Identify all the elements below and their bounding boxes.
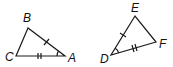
triangle-abc bbox=[16, 28, 65, 59]
triangle-def bbox=[111, 16, 156, 55]
label-a: A bbox=[67, 51, 76, 65]
label-e: E bbox=[131, 1, 140, 15]
label-c: C bbox=[5, 50, 14, 64]
label-f: F bbox=[159, 37, 167, 51]
tick-ba bbox=[44, 39, 49, 45]
congruence-diagram: B C A E D F bbox=[0, 0, 173, 67]
label-b: B bbox=[23, 11, 31, 25]
angle-arc-d bbox=[115, 48, 119, 53]
label-d: D bbox=[100, 52, 109, 66]
angle-arc-a bbox=[57, 51, 59, 56]
